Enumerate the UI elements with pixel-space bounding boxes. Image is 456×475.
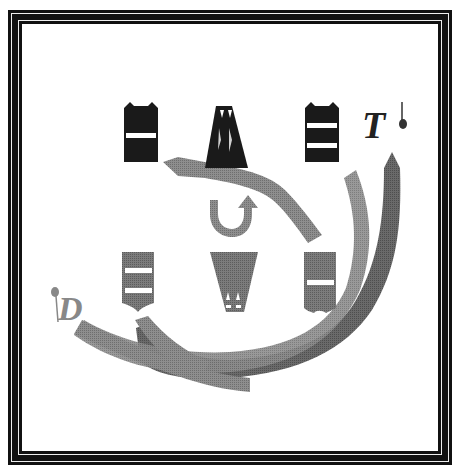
svg-text:T: T <box>362 104 387 146</box>
svg-text:D: D <box>57 290 83 327</box>
upper-center-cope-icon <box>205 106 248 168</box>
lower-left-vestment-icon <box>122 252 154 312</box>
lower-right-vestment-icon <box>304 252 336 313</box>
upper-left-vestment-icon <box>124 102 158 162</box>
deacon-letter-d-icon: D <box>51 287 83 327</box>
u-turn-arrow-icon <box>210 195 258 237</box>
lower-center-cope-icon <box>210 252 258 312</box>
upper-right-vestment-icon <box>305 102 339 162</box>
procession-diagram: T D <box>0 0 456 475</box>
thurifer-letter-t-icon: T <box>362 102 407 146</box>
